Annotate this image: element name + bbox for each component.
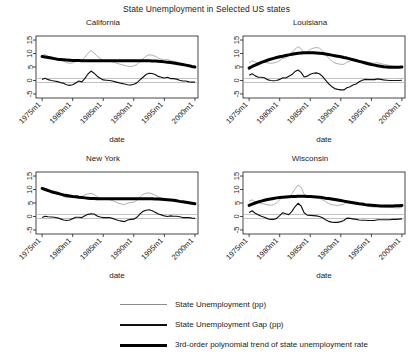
legend-label: State Unemployment Gap (pp) <box>175 320 284 329</box>
series-polynomial-trend <box>42 188 195 203</box>
series-polynomial-trend <box>249 53 402 68</box>
legend-label: 3rd-order polynomial trend of state unem… <box>175 340 368 349</box>
x-tick-label: 1975m1 <box>224 100 250 126</box>
panel-grid: California-50510151975m11980m11985m11990… <box>0 18 413 290</box>
series-unemployment <box>249 47 402 67</box>
y-tick-label: -5 <box>233 91 242 98</box>
y-tick-label: -5 <box>233 227 242 234</box>
chart-root: State Unemployment in Selected US states… <box>0 0 413 359</box>
chart-title: State Unemployment in Selected US states <box>0 4 413 14</box>
x-tick-label: 2000m1 <box>170 236 196 262</box>
y-tick-label: 0 <box>233 78 242 82</box>
x-tick-label: 1980m1 <box>255 100 281 126</box>
y-tick-label: 10 <box>26 185 35 193</box>
y-tick-label: 10 <box>233 49 242 57</box>
series-polynomial-trend <box>249 196 402 206</box>
x-tick-label: 2000m1 <box>377 236 403 262</box>
plot-frame <box>36 36 198 98</box>
y-tick-label: 0 <box>26 78 35 82</box>
x-tick-label: 1985m1 <box>78 236 104 262</box>
legend-swatch-line <box>120 324 167 326</box>
y-tick-label: 5 <box>233 65 242 69</box>
legend-line-swatch <box>120 299 167 309</box>
x-axis-label: date <box>109 135 125 144</box>
y-tick-label: -5 <box>26 227 35 234</box>
legend-item: 3rd-order polynomial trend of state unem… <box>120 336 368 352</box>
legend-swatch-line <box>120 304 167 305</box>
x-axis-label: date <box>316 271 332 280</box>
panel-plot: -50510151975m11980m11985m11990m11995m120… <box>207 154 413 290</box>
x-tick-label: 2000m1 <box>377 100 403 126</box>
plot-frame <box>36 172 198 234</box>
legend-line-swatch <box>120 339 167 349</box>
x-tick-label: 1995m1 <box>139 100 165 126</box>
x-tick-label: 1980m1 <box>48 100 74 126</box>
x-tick-label: 1990m1 <box>109 100 135 126</box>
panel-california: California-50510151975m11980m11985m11990… <box>0 18 206 154</box>
y-tick-label: -5 <box>26 91 35 98</box>
legend-item: State Unemployment Gap (pp) <box>120 316 284 332</box>
x-tick-label: 1975m1 <box>17 236 43 262</box>
chart-legend: State Unemployment (pp)State Unemploymen… <box>0 296 413 356</box>
y-tick-label: 10 <box>26 49 35 57</box>
y-tick-label: 0 <box>233 214 242 218</box>
panel-plot: -50510151975m11980m11985m11990m11995m120… <box>0 154 206 290</box>
panel-title: Louisiana <box>207 18 413 27</box>
x-tick-label: 1985m1 <box>285 236 311 262</box>
legend-item: State Unemployment (pp) <box>120 296 266 312</box>
x-tick-label: 1980m1 <box>255 236 281 262</box>
panel-wisconsin: Wisconsin-50510151975m11980m11985m11990m… <box>207 154 413 290</box>
x-tick-label: 1975m1 <box>17 100 43 126</box>
x-tick-label: 1995m1 <box>346 236 372 262</box>
panel-plot: -50510151975m11980m11985m11990m11995m120… <box>0 18 206 154</box>
y-tick-label: 5 <box>26 65 35 69</box>
y-tick-label: 15 <box>26 172 35 180</box>
x-tick-label: 1990m1 <box>316 236 342 262</box>
y-tick-label: 10 <box>233 185 242 193</box>
panel-title: Wisconsin <box>207 154 413 163</box>
x-tick-label: 1995m1 <box>346 100 372 126</box>
y-tick-label: 15 <box>26 36 35 44</box>
y-tick-label: 15 <box>233 36 242 44</box>
x-tick-label: 1985m1 <box>78 100 104 126</box>
y-tick-label: 15 <box>233 172 242 180</box>
x-axis-label: date <box>316 135 332 144</box>
x-tick-label: 1985m1 <box>285 100 311 126</box>
series-unemployment-gap <box>42 210 195 222</box>
x-tick-label: 1990m1 <box>316 100 342 126</box>
x-tick-label: 2000m1 <box>170 100 196 126</box>
series-unemployment-gap <box>249 70 402 90</box>
plot-frame <box>243 172 405 234</box>
legend-swatch-line <box>120 344 167 347</box>
panel-new-york: New York-50510151975m11980m11985m11990m1… <box>0 154 206 290</box>
panel-plot: -50510151975m11980m11985m11990m11995m120… <box>207 18 413 154</box>
y-tick-label: 5 <box>26 201 35 205</box>
legend-label: State Unemployment (pp) <box>175 300 266 309</box>
x-tick-label: 1995m1 <box>139 236 165 262</box>
panel-title: New York <box>0 154 206 163</box>
panel-title: California <box>0 18 206 27</box>
x-axis-label: date <box>109 271 125 280</box>
legend-line-swatch <box>120 319 167 329</box>
x-tick-label: 1975m1 <box>224 236 250 262</box>
x-tick-label: 1990m1 <box>109 236 135 262</box>
y-tick-label: 0 <box>26 214 35 218</box>
x-tick-label: 1980m1 <box>48 236 74 262</box>
panel-louisiana: Louisiana-50510151975m11980m11985m11990m… <box>207 18 413 154</box>
y-tick-label: 5 <box>233 201 242 205</box>
